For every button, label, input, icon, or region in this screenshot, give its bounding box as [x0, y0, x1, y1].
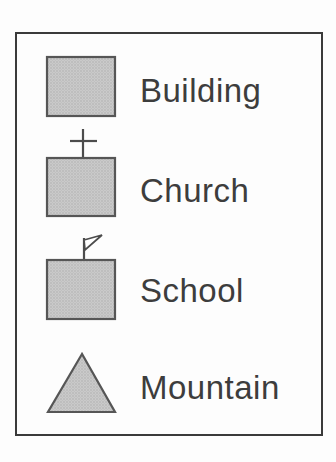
school-symbol	[44, 228, 118, 322]
building-symbol	[44, 55, 118, 119]
page: { "legend": { "items": [ { "label": "Bui…	[0, 0, 336, 462]
building-square-icon	[47, 57, 115, 116]
legend-row-church: Church	[0, 125, 336, 219]
legend-label-building: Building	[140, 74, 261, 107]
flag-icon	[84, 235, 102, 261]
legend-label-church: Church	[140, 174, 249, 207]
cross-icon	[70, 129, 97, 159]
mountain-symbol	[42, 347, 122, 417]
legend-row-building: Building	[0, 55, 336, 119]
school-square-icon	[47, 260, 115, 319]
legend-label-school: School	[140, 274, 244, 307]
legend-label-mountain: Mountain	[140, 371, 280, 404]
legend-row-school: School	[0, 228, 336, 322]
church-symbol	[44, 125, 118, 219]
church-square-icon	[47, 158, 115, 216]
legend-row-mountain: Mountain	[0, 347, 336, 417]
mountain-triangle-icon	[48, 354, 115, 412]
